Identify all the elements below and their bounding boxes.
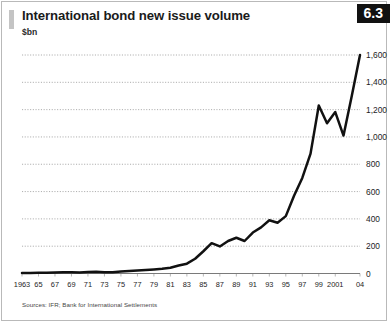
x-axis-tick-label: 89: [232, 280, 240, 289]
x-axis-tick-label: 65: [34, 280, 42, 289]
x-axis-tick-label: 97: [298, 280, 306, 289]
y-axis-tick-label: 1,000: [366, 132, 387, 142]
x-axis-tick-label: 04: [356, 280, 364, 289]
x-axis-tick-label: 73: [100, 280, 108, 289]
x-axis-tick-label: 79: [150, 280, 158, 289]
x-axis-tick-label: 93: [265, 280, 273, 289]
x-axis-labels-group: 1963656769717375777981838587899193959799…: [14, 280, 364, 289]
x-axis-tick-label: 85: [199, 280, 207, 289]
y-axis-tick-label: 1,200: [366, 105, 387, 115]
y-axis-tick-label: 1,600: [366, 50, 387, 60]
y-axis-tick-label: 200: [366, 241, 380, 251]
source-note: Sources: IFR; Bank for International Set…: [22, 301, 157, 308]
x-axis-tick-label: 81: [166, 280, 174, 289]
x-axis-tick-label: 95: [282, 280, 290, 289]
x-axis-tick-label: 75: [117, 280, 125, 289]
x-axis-tick-label: 91: [249, 280, 257, 289]
y-axis-tick-label: 400: [366, 214, 380, 224]
y-axis-tick-label: 0: [366, 269, 371, 279]
x-axis-tick-label: 99: [315, 280, 323, 289]
y-axis-tick-label: 600: [366, 187, 380, 197]
x-axis-tick-label: 67: [51, 280, 59, 289]
x-axis-tick-label: 71: [84, 280, 92, 289]
x-axis-tick-label: 83: [183, 280, 191, 289]
gridlines-group: [22, 55, 360, 246]
x-axis-tick-label: 87: [216, 280, 224, 289]
chart-plot-area: 02004006008001,0001,2001,4001,600 196365…: [2, 2, 388, 322]
y-axis-labels-group: 02004006008001,0001,2001,4001,600: [366, 50, 387, 279]
x-axis-tick-label: 77: [133, 280, 141, 289]
x-axis-tick-label: 1963: [14, 280, 30, 289]
line-chart: 02004006008001,0001,2001,4001,600 196365…: [2, 2, 388, 322]
figure-card: International bond new issue volume $bn …: [1, 1, 387, 321]
x-axis-tick-label: 2001: [327, 280, 343, 289]
y-axis-tick-label: 1,400: [366, 77, 387, 87]
x-axis-tick-label: 69: [67, 280, 75, 289]
y-axis-tick-label: 800: [366, 159, 380, 169]
